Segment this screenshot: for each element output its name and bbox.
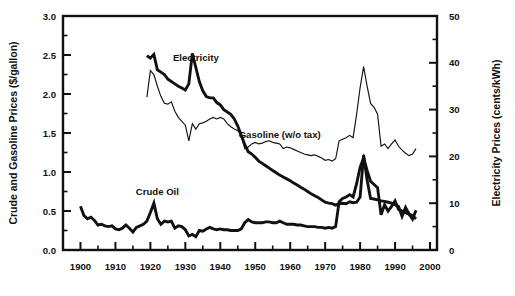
- y-tick-label-left: 1.0: [43, 167, 56, 178]
- y-tick-label-right: 40: [449, 57, 460, 68]
- data-series-group: [80, 53, 416, 236]
- x-tick-label: 1930: [175, 261, 196, 272]
- y-tick-label-right: 30: [449, 104, 460, 115]
- series-label-crude-oil: Crude Oil: [136, 186, 179, 197]
- y-tick-label-left: 0.5: [43, 206, 57, 217]
- series-line-gasoline-w-o-tax: [147, 67, 416, 161]
- series-label-gasoline: Gasoline (w/o tax): [239, 129, 321, 140]
- x-tick-label: 1920: [140, 261, 161, 272]
- x-tick-label: 1990: [384, 261, 405, 272]
- x-axis-ticks: [80, 242, 430, 250]
- x-tick-label: 1960: [280, 261, 301, 272]
- y-tick-label-left: 2.0: [43, 89, 56, 100]
- y-axis-right-tick-labels: 01020304050: [449, 11, 460, 256]
- x-tick-label: 2000: [419, 261, 440, 272]
- y-axis-left-tick-labels: 0.00.51.01.52.02.53.0: [43, 11, 57, 256]
- x-tick-label: 1950: [245, 261, 266, 272]
- x-tick-label: 1900: [70, 261, 91, 272]
- y-tick-label-right: 50: [449, 11, 460, 22]
- series-line-crude-oil: [80, 158, 416, 237]
- y-tick-label-left: 1.5: [43, 128, 57, 139]
- series-label-electricity: Electricity: [173, 52, 220, 63]
- y-tick-label-left: 2.5: [43, 50, 57, 61]
- y-tick-label-left: 0.0: [43, 245, 56, 256]
- y-tick-label-right: 0: [449, 245, 454, 256]
- chart-container: 1900191019201930194019501960197019801990…: [0, 0, 515, 296]
- y-tick-label-right: 20: [449, 151, 460, 162]
- x-axis-tick-labels: 1900191019201930194019501960197019801990…: [70, 261, 441, 272]
- x-tick-label: 1970: [314, 261, 335, 272]
- y-tick-label-left: 3.0: [43, 11, 56, 22]
- x-tick-label: 1910: [105, 261, 126, 272]
- x-tick-label: 1980: [349, 261, 370, 272]
- y-tick-label-right: 10: [449, 198, 460, 209]
- price-history-line-chart: 1900191019201930194019501960197019801990…: [0, 0, 515, 296]
- y-axis-right-ticks: [429, 16, 437, 250]
- y-axis-left-title: Crude and Gasoline Prices ($/gallon): [7, 41, 19, 224]
- x-tick-label: 1940: [210, 261, 231, 272]
- y-axis-right-title: Electricity Prices (cents/kWh): [490, 59, 502, 206]
